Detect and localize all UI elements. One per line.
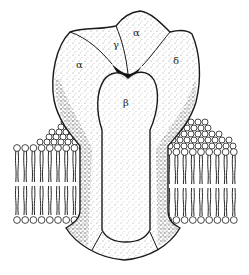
- label-gamma: γ: [113, 39, 119, 50]
- label-beta: β: [123, 97, 129, 108]
- label-alpha-top: α: [133, 27, 140, 38]
- receptor-diagram: α γ α δ β: [0, 0, 249, 275]
- label-delta: δ: [173, 55, 179, 66]
- label-alpha-left: α: [76, 59, 83, 70]
